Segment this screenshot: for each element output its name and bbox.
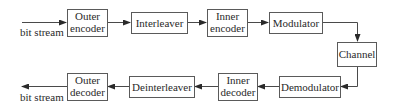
outer-decoder-label-2: decoder bbox=[70, 86, 105, 98]
concatenated-coding-diagram: bit stream bit stream Outer encoder Inte… bbox=[0, 0, 393, 109]
input-label: bit stream bbox=[20, 26, 64, 38]
inner-encoder-label-1: Inner bbox=[216, 10, 240, 22]
outer-decoder-label-1: Outer bbox=[75, 74, 100, 86]
inner-decoder-block: Inner decoder bbox=[219, 74, 258, 101]
interleaver-label: Interleaver bbox=[136, 17, 184, 29]
inner-encoder-label-2: encoder bbox=[210, 22, 245, 34]
channel-block: Channel bbox=[338, 43, 377, 67]
outer-encoder-label-2: encoder bbox=[70, 22, 105, 34]
output-label: bit stream bbox=[20, 91, 64, 103]
outer-encoder-block: Outer encoder bbox=[68, 10, 108, 37]
deinterleaver-label: Deinterleaver bbox=[132, 81, 192, 93]
demodulator-label: Demodulator bbox=[281, 81, 339, 93]
outer-encoder-label-1: Outer bbox=[75, 10, 100, 22]
demodulator-block: Demodulator bbox=[280, 77, 341, 98]
outer-decoder-block: Outer decoder bbox=[68, 74, 108, 101]
deinterleaver-block: Deinterleaver bbox=[130, 77, 195, 98]
arrow-modulator-to-channel bbox=[322, 23, 358, 42]
interleaver-block: Interleaver bbox=[132, 13, 188, 34]
modulator-label: Modulator bbox=[273, 17, 320, 29]
inner-decoder-label-2: decoder bbox=[221, 86, 256, 98]
inner-decoder-label-1: Inner bbox=[226, 74, 250, 86]
channel-label: Channel bbox=[339, 48, 376, 60]
arrow-channel-to-demodulator bbox=[341, 67, 358, 87]
modulator-block: Modulator bbox=[270, 13, 323, 34]
inner-encoder-block: Inner encoder bbox=[208, 10, 248, 37]
